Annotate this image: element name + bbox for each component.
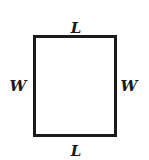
label-bottom-length: L: [71, 144, 82, 159]
label-right-width: W: [121, 79, 138, 94]
label-top-length: L: [71, 21, 82, 36]
label-left-width: W: [10, 79, 27, 94]
rectangle-shape: [33, 35, 117, 137]
